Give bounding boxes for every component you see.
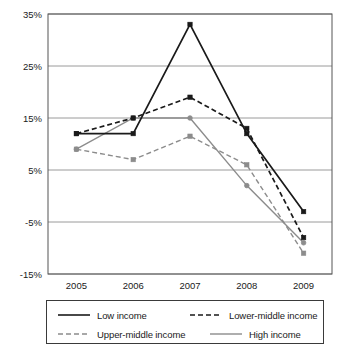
legend-swatch-lower-middle-income [189, 310, 223, 320]
data-point [74, 131, 78, 135]
data-point [301, 235, 305, 239]
legend-swatch-high-income [209, 329, 243, 339]
x-tick-label: 2008 [236, 280, 257, 291]
legend-entry-low-income: Low income [57, 306, 147, 324]
x-tick-label: 2006 [123, 280, 144, 291]
legend-swatch-low-income [57, 310, 91, 320]
data-point [188, 22, 192, 26]
series-line [76, 136, 303, 253]
legend-label-lower-middle-income: Lower-middle income [229, 310, 317, 321]
gridlines [48, 14, 332, 274]
y-tick-label: 35% [23, 9, 43, 20]
y-tick-label: 5% [28, 165, 42, 176]
legend-entry-high-income: High income [209, 325, 301, 343]
data-point [188, 116, 193, 121]
data-point [301, 209, 305, 213]
plot-border [48, 14, 332, 274]
data-point [301, 251, 305, 255]
data-point [188, 134, 192, 138]
data-point [188, 95, 192, 99]
legend-swatch-upper-middle-income [57, 329, 91, 339]
y-tick-label: 25% [23, 61, 43, 72]
data-point [131, 116, 135, 120]
series-upper-middle-income [74, 134, 306, 255]
plot-frame [48, 14, 332, 274]
data-point [245, 183, 250, 188]
x-tick-label: 2007 [179, 280, 200, 291]
data-point [131, 131, 135, 135]
chart-legend: Low income Lower-middle income Upper-mid… [46, 300, 324, 344]
legend-entry-lower-middle-income: Lower-middle income [189, 306, 317, 324]
y-axis-labels: 35%25%15%5%-5%-15% [20, 9, 43, 280]
line-chart: 35%25%15%5%-5%-15%20052006200720082009 L… [0, 0, 343, 354]
data-point [131, 157, 135, 161]
x-tick-label: 2005 [66, 280, 87, 291]
data-point [245, 163, 249, 167]
x-tick-label: 2009 [293, 280, 314, 291]
y-tick-label: -5% [25, 217, 42, 228]
legend-label-upper-middle-income: Upper-middle income [97, 329, 185, 340]
y-tick-label: 15% [23, 113, 43, 124]
legend-entry-upper-middle-income: Upper-middle income [57, 325, 185, 343]
data-point [74, 147, 78, 151]
y-tick-label: -15% [20, 269, 43, 280]
legend-label-low-income: Low income [97, 310, 147, 321]
legend-label-high-income: High income [249, 329, 301, 340]
x-axis-labels: 20052006200720082009 [66, 280, 314, 291]
data-point [245, 131, 249, 135]
data-point [301, 241, 306, 246]
